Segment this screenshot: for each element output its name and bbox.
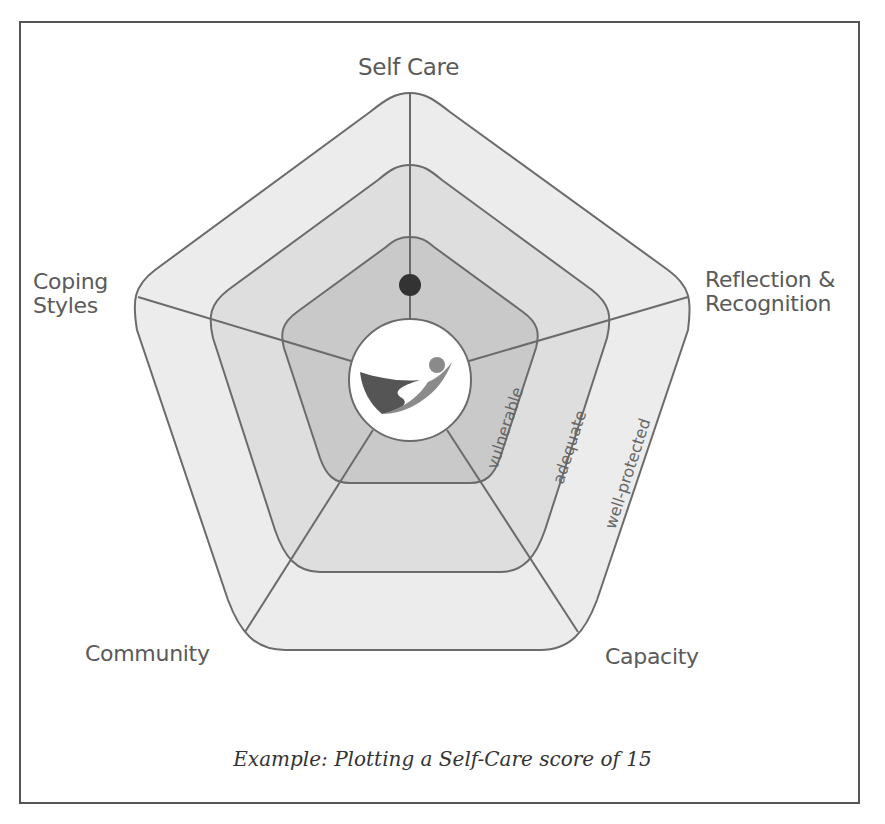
score-marker-dot: [399, 274, 421, 296]
axis-label-capacity: Capacity: [605, 645, 699, 669]
axis-label-community: Community: [85, 642, 210, 666]
diagram-caption: Example: Plotting a Self-Care score of 1…: [0, 747, 885, 771]
resilience-pentagon-diagram: vulnerable adequate well-protected: [0, 0, 885, 824]
axis-label-reflection-recognition: Reflection & Recognition: [705, 268, 835, 316]
axis-label-reflection-line1: Reflection &: [705, 268, 835, 292]
axis-label-coping-line2: Styles: [33, 294, 108, 318]
axis-label-coping-styles: Coping Styles: [33, 270, 108, 318]
axis-label-reflection-line2: Recognition: [705, 292, 835, 316]
axis-label-self-care: Self Care: [358, 55, 459, 79]
axis-label-coping-line1: Coping: [33, 270, 108, 294]
